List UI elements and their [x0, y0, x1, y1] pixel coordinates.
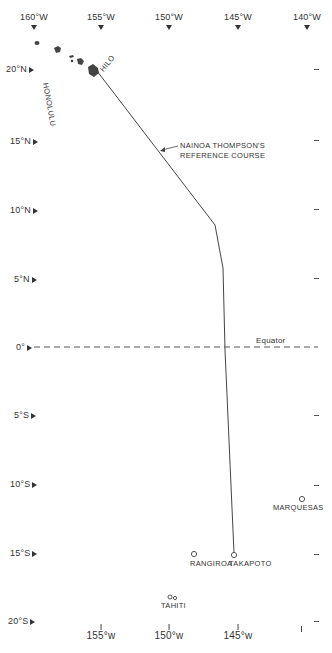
right-tick-10n: [314, 209, 319, 210]
equator-label: Equator: [256, 336, 285, 345]
island-oahu: [54, 46, 61, 53]
bottom-lon-label-145w: 145°w: [224, 624, 253, 641]
tahiti-marker: [168, 595, 177, 600]
right-tick-5s: [314, 415, 319, 416]
lat-marker-icon: [31, 413, 36, 419]
lon-marker-160w: [31, 25, 37, 30]
lat-label-15s: 15°S: [10, 548, 37, 558]
lat-marker-icon: [33, 208, 38, 214]
lon-marker-145w: [235, 25, 241, 30]
lon-label-140w: 140°W: [293, 12, 321, 22]
lon-marker-140w: [304, 25, 310, 30]
right-tick-20s: [314, 621, 319, 622]
lat-marker-icon: [32, 551, 37, 557]
bottom-tick-140w: [301, 626, 302, 632]
lat-label-15n: 15°N: [10, 136, 38, 146]
place-label-marquesas: MARQUESAS: [273, 503, 324, 512]
lat-label-10s: 10°S: [10, 479, 37, 489]
right-tick-20n: [314, 69, 319, 70]
lat-label-5s: 5°S: [14, 410, 36, 420]
annotation-arrowhead: [160, 147, 165, 152]
lat-label-20s: 20°S: [8, 616, 35, 626]
lat-marker-icon: [33, 139, 38, 145]
course-annotation-line1: NAINOA THOMPSON'S: [180, 141, 265, 151]
lat-marker-icon: [30, 619, 35, 625]
lat-label-5n: 5°N: [14, 274, 37, 284]
island-molokai: [69, 55, 74, 58]
lon-marker-150w: [166, 25, 172, 30]
course-annotation: NAINOA THOMPSON'S REFERENCE COURSE: [180, 141, 265, 161]
right-tick-15s: [314, 554, 319, 555]
right-tick-10s: [314, 485, 319, 486]
course-annotation-line2: REFERENCE COURSE: [180, 151, 265, 161]
rangiroa-marker: [191, 551, 196, 556]
takapoto-marker: [231, 552, 236, 557]
lat-label-10n: 10°N: [10, 205, 38, 215]
marquesas-marker: [299, 496, 304, 501]
lat-marker-icon: [32, 277, 37, 283]
hawaiian-islands: [35, 41, 100, 77]
lon-label-160w: 160°W: [20, 12, 48, 22]
right-tick-5n: [314, 278, 319, 279]
bottom-lon-label-155w: 155°w: [87, 624, 116, 641]
island-kauai: [35, 41, 40, 45]
right-tick-15n: [314, 140, 319, 141]
island-maui: [77, 58, 84, 65]
lat-marker-icon: [32, 482, 37, 488]
lon-label-155w: 155°W: [87, 12, 115, 22]
lon-marker-155w: [98, 25, 104, 30]
lon-label-150w: 150°W: [155, 12, 183, 22]
bottom-lon-label-150w: 150°w: [155, 624, 184, 641]
place-label-takapoto: TAKAPOTO: [229, 559, 272, 568]
lat-marker-icon: [27, 345, 32, 351]
lon-label-145w: 145°W: [224, 12, 252, 22]
lat-label-0: 0°: [16, 342, 32, 352]
place-label-tahiti: TAHITI: [161, 601, 186, 610]
place-label-rangiroa: RANGIROA: [190, 559, 232, 568]
lat-marker-icon: [29, 67, 34, 73]
island-hawaii: [88, 64, 99, 77]
lat-label-20n: 20°N: [6, 64, 34, 74]
island-lanai: [71, 60, 74, 63]
